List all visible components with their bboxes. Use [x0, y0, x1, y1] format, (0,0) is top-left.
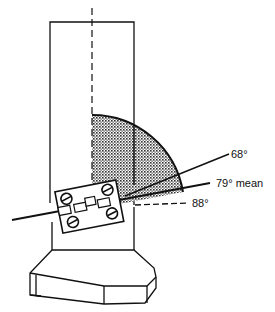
hinge	[55, 180, 124, 233]
base	[30, 250, 156, 304]
label-88: 88°	[192, 197, 209, 209]
line-88-deg	[135, 203, 188, 205]
label-79-mean: 79° mean	[216, 177, 263, 189]
label-68: 68°	[231, 148, 248, 160]
hinge-angle-diagram: 68° 79° mean 88°	[0, 0, 275, 312]
